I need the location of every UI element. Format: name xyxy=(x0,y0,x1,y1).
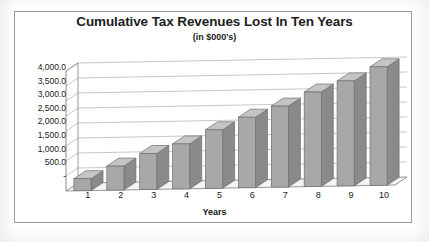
y-axis-zero-label: - xyxy=(16,171,66,181)
y-tick-label: 500.0 xyxy=(16,156,66,170)
x-tick-label-3: 3 xyxy=(143,190,165,200)
x-tick-label-5: 5 xyxy=(208,190,230,200)
x-tick-label-8: 8 xyxy=(307,190,329,200)
title-block: Cumulative Tax Revenues Lost In Ten Year… xyxy=(0,14,429,43)
x-tick-label-10: 10 xyxy=(373,190,395,200)
bar-year-2[interactable] xyxy=(107,158,136,190)
gridline-riser xyxy=(66,168,78,176)
y-tick-label: 1,000.0 xyxy=(16,143,66,157)
x-tick-label-2: 2 xyxy=(110,190,132,200)
y-tick-label: 2,000.0 xyxy=(16,115,66,129)
y-tick-label: 1,500.0 xyxy=(16,129,66,143)
bars-group xyxy=(74,59,399,191)
gridline-riser xyxy=(66,123,78,131)
x-tick-label-4: 4 xyxy=(176,190,198,200)
chart-screenshot: Cumulative Tax Revenues Lost In Ten Year… xyxy=(0,0,429,242)
gridline-40000 xyxy=(78,57,407,63)
bar-year-6[interactable] xyxy=(238,109,267,188)
bar-year-7[interactable] xyxy=(271,98,300,187)
x-tick-label-7: 7 xyxy=(274,190,296,200)
x-axis-tick-labels: 12345678910 xyxy=(0,190,429,204)
bar-year-4[interactable] xyxy=(173,136,202,189)
x-tick-label-9: 9 xyxy=(340,190,362,200)
x-tick-label-6: 6 xyxy=(241,190,263,200)
bar-year-10[interactable] xyxy=(370,59,399,186)
y-tick-label: 2,500.0 xyxy=(16,102,66,116)
x-tick-label-1: 1 xyxy=(77,190,99,200)
bar-year-3[interactable] xyxy=(140,146,169,190)
bar-year-5[interactable] xyxy=(205,122,234,189)
gridline-riser xyxy=(66,153,78,161)
bar-year-8[interactable] xyxy=(304,84,333,187)
x-axis-title: Years xyxy=(0,207,429,217)
y-tick-label: 3,500.0 xyxy=(16,75,66,89)
chart-subtitle: (in $000's) xyxy=(0,31,429,43)
y-axis-tick-labels: 4,000.03,500.03,000.02,500.02,000.01,500… xyxy=(16,61,66,170)
y-axis-top-connector xyxy=(66,63,78,71)
chart-title: Cumulative Tax Revenues Lost In Ten Year… xyxy=(0,14,429,29)
gridline-riser xyxy=(66,78,78,86)
y-tick-label: 4,000.0 xyxy=(16,61,66,75)
gridline-riser xyxy=(66,138,78,146)
gridline-riser xyxy=(66,108,78,116)
y-tick-label: 3,000.0 xyxy=(16,88,66,102)
bar-year-9[interactable] xyxy=(337,73,366,186)
gridline-riser xyxy=(66,93,78,101)
